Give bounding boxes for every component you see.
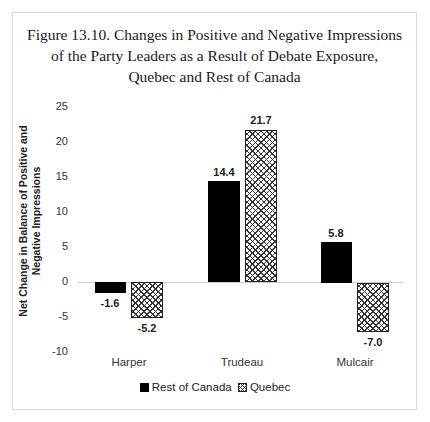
y-tick: 0 [44, 275, 68, 287]
bar-mulcair-quebec [357, 283, 389, 332]
bar-trudeau-rest-of-canada [208, 181, 240, 282]
y-axis-label-line: Net Change in Balance of Positive and [17, 121, 30, 321]
y-tick: -5 [44, 310, 68, 322]
title-line: Quebec and Rest of Canada [12, 66, 417, 87]
value-label: 14.4 [204, 166, 244, 178]
zero-axis-line [78, 282, 403, 283]
title-line: of the Party Leaders as a Result of Deba… [12, 45, 417, 66]
y-axis-label-line: Negative Impressions [30, 121, 43, 321]
bar-trudeau-quebec [245, 130, 277, 282]
y-axis-label: Net Change in Balance of Positive and Ne… [17, 121, 43, 321]
legend-swatch-quebec [238, 383, 247, 392]
title-line: Figure 13.10. Changes in Positive and Ne… [12, 24, 417, 45]
legend: Rest of Canada Quebec [0, 381, 430, 393]
legend-label: Rest of Canada [152, 381, 232, 393]
value-label: 5.8 [316, 227, 356, 239]
legend-swatch-rest-of-canada [140, 383, 149, 392]
bar-harper-quebec [131, 282, 163, 318]
category-label: Trudeau [202, 356, 282, 368]
y-tick: 20 [44, 135, 68, 147]
bar-harper-rest-of-canada [95, 282, 126, 293]
category-label: Harper [89, 356, 169, 368]
value-label: 21.7 [241, 114, 281, 126]
y-tick: 10 [44, 205, 68, 217]
figure-title: Figure 13.10. Changes in Positive and Ne… [12, 24, 417, 87]
category-label: Mulcair [315, 356, 395, 368]
y-tick: 25 [44, 100, 68, 112]
value-label: -5.2 [127, 322, 167, 334]
value-label: -1.6 [90, 297, 130, 309]
bar-mulcair-rest-of-canada [321, 242, 352, 283]
legend-label: Quebec [250, 381, 290, 393]
y-tick: 5 [44, 240, 68, 252]
y-tick: -10 [44, 345, 68, 357]
y-tick: 15 [44, 170, 68, 182]
value-label: -7.0 [353, 336, 393, 348]
